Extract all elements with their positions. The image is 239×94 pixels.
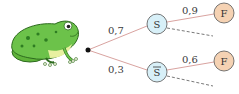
frog-image xyxy=(12,21,79,66)
root-node xyxy=(86,48,91,53)
node-s-bar-f: F xyxy=(214,51,234,71)
prob-label-s: 0,7 xyxy=(108,25,124,36)
branch-s-dashed xyxy=(167,28,213,36)
prob-label-s-f: 0,9 xyxy=(182,5,198,16)
node-s-f: F xyxy=(214,3,234,23)
prob-label-s-bar-f: 0,6 xyxy=(182,54,198,65)
node-s-bar-label: S xyxy=(154,67,161,78)
probability-tree-diagram: 0,7 0,3 0,9 0,6 S S F F xyxy=(0,0,239,94)
prob-label-s-bar: 0,3 xyxy=(108,64,124,75)
node-s-f-label: F xyxy=(221,8,228,19)
branch-s-bar-dashed xyxy=(167,76,213,86)
node-s-bar-f-label: F xyxy=(221,56,228,67)
node-s: S xyxy=(147,14,167,34)
node-s-label: S xyxy=(154,19,161,30)
node-s-bar: S xyxy=(147,62,167,82)
